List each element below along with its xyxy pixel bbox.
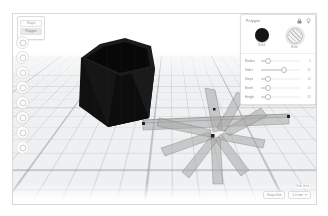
property-label: Radius: [245, 59, 258, 63]
circle-icon: [19, 54, 26, 61]
sidebar-button-1[interactable]: [16, 36, 29, 49]
edit-grid-button[interactable]: Edit Grid: [296, 184, 310, 188]
property-value[interactable]: 32: [303, 68, 311, 72]
hole-swatch[interactable]: Hole: [280, 28, 310, 49]
shape-inspector-panel[interactable]: Polygon Solid Hole: [240, 14, 316, 105]
hole-pattern-dot[interactable]: [287, 28, 303, 44]
shape-type-swatches[interactable]: Solid Hole: [241, 26, 315, 53]
circle-icon: [19, 114, 26, 121]
property-row-sides[interactable]: Sides 32: [241, 65, 315, 74]
lock-icon[interactable]: [297, 18, 302, 24]
property-slider[interactable]: [261, 92, 300, 101]
shape-properties-list[interactable]: Radius 5 Sides 32 Steps: [241, 53, 315, 104]
property-slider[interactable]: [261, 65, 300, 74]
chevron-down-icon: [305, 194, 307, 196]
circle-icon: [19, 99, 26, 106]
circle-icon: [19, 84, 26, 91]
property-value[interactable]: 10: [303, 77, 311, 81]
inspector-header: Polygon: [241, 15, 315, 26]
property-label: Bevel: [245, 86, 258, 90]
snap-grid-select[interactable]: 1.0 mm: [288, 191, 311, 199]
circle-icon: [19, 69, 26, 76]
app-root: Edit Grid Snap Grid 1.0 mm Shape Polygon…: [0, 0, 328, 216]
sidebar-button-2[interactable]: [16, 51, 29, 64]
snap-grid-label: Snap Grid: [263, 191, 285, 199]
lightbulb-icon[interactable]: [306, 18, 311, 24]
property-row-radius[interactable]: Radius 5: [241, 56, 315, 65]
property-slider[interactable]: [261, 83, 300, 92]
shape-picker-row-2[interactable]: Polygon: [20, 28, 42, 35]
circle-icon: [19, 129, 26, 136]
property-slider[interactable]: [261, 56, 300, 65]
property-row-steps[interactable]: Steps 10: [241, 74, 315, 83]
shape-picker-row-1[interactable]: Shape: [20, 20, 42, 27]
view-tools-stack[interactable]: [16, 36, 29, 156]
property-value[interactable]: 10: [303, 86, 311, 90]
slider-knob[interactable]: [265, 85, 271, 91]
sidebar-button-7[interactable]: [16, 126, 29, 139]
sidebar-button-6[interactable]: [16, 111, 29, 124]
snap-grid-value: 1.0 mm: [292, 193, 303, 197]
property-row-height[interactable]: Height 20: [241, 92, 315, 101]
property-row-bevel[interactable]: Bevel 10: [241, 83, 315, 92]
solid-color-dot[interactable]: [255, 28, 269, 42]
slider-knob[interactable]: [281, 67, 287, 73]
snap-grid-controls[interactable]: Snap Grid 1.0 mm: [263, 191, 311, 199]
sidebar-button-5[interactable]: [16, 96, 29, 109]
slider-knob[interactable]: [265, 76, 271, 82]
page-title: Polygon: [246, 19, 260, 23]
circle-icon: [19, 39, 26, 46]
property-value[interactable]: 5: [303, 59, 311, 63]
property-value[interactable]: 20: [303, 95, 311, 99]
sidebar-button-8[interactable]: [16, 141, 29, 154]
property-slider[interactable]: [261, 74, 300, 83]
slider-knob[interactable]: [265, 94, 271, 100]
solid-swatch[interactable]: Solid: [247, 28, 277, 47]
hole-swatch-label: Hole: [280, 45, 310, 49]
circle-icon: [19, 144, 26, 151]
inspector-header-icons: [297, 18, 311, 24]
sidebar-button-4[interactable]: [16, 81, 29, 94]
slider-knob[interactable]: [265, 58, 271, 64]
solid-swatch-label: Solid: [247, 43, 277, 47]
property-label: Sides: [245, 68, 258, 72]
property-label: Height: [245, 95, 258, 99]
property-label: Steps: [245, 77, 258, 81]
sidebar-button-3[interactable]: [16, 66, 29, 79]
